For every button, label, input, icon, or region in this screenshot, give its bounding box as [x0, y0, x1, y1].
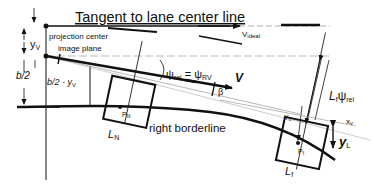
l-f-label: Lf — [285, 165, 293, 178]
p-n-point — [118, 105, 122, 109]
x-v-label: xv — [346, 117, 353, 126]
lane-geometry-diagram: Tangent to lane center line Videal yV pr… — [0, 0, 374, 187]
b-half-minus-yv-label: b/2 - yV — [47, 77, 76, 88]
p-n-label: PN — [122, 111, 131, 119]
p-f-point — [296, 141, 300, 145]
diagram-svg: Tangent to lane center line Videal yV pr… — [0, 0, 374, 187]
near-window — [103, 37, 164, 128]
projection-center-label: projection center — [49, 32, 108, 41]
psi-rel-equation: ψrel = ψRV — [166, 68, 212, 81]
image-plane-label: image plane — [58, 44, 102, 53]
b-half-label: b/2 — [16, 70, 30, 81]
lf-psi-dimension — [298, 56, 329, 140]
beta-label: β — [218, 87, 223, 97]
right-borderline-label: right borderline — [149, 122, 226, 134]
velocity-label: V — [235, 71, 244, 85]
v-ideal-label: Videal — [242, 30, 260, 39]
lf-psi-rel-label: Lfψrel — [329, 89, 354, 103]
x-v-axis — [220, 100, 356, 126]
p-f-label: Pf — [298, 148, 305, 156]
title-label: Tangent to lane center line — [75, 9, 245, 25]
y-l-label: yL — [338, 134, 351, 150]
l-n-label: LN — [108, 128, 119, 141]
y-v-label: yV — [30, 38, 41, 51]
y-c-label: Yc — [284, 114, 292, 122]
